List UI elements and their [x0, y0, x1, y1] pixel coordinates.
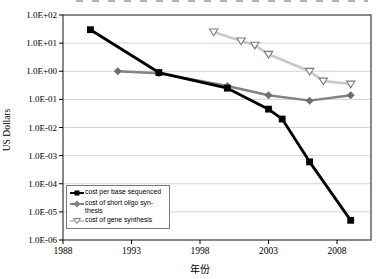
legend-entry-gene-synthesis: cost of gene synthesis — [70, 216, 167, 227]
svg-text:1988: 1988 — [54, 246, 73, 256]
y-axis-title: US Dollars — [2, 100, 14, 160]
svg-text:1.0E-01: 1.0E-01 — [28, 94, 57, 104]
legend-box: cost per base sequenced cost of short ol… — [66, 185, 170, 229]
open-triangle-marker-icon — [70, 216, 85, 227]
svg-text:1.0E-06: 1.0E-06 — [28, 235, 57, 245]
svg-text:1.0E-03: 1.0E-03 — [28, 151, 57, 161]
svg-text:1993: 1993 — [122, 246, 141, 256]
svg-text:1.0E+00: 1.0E+00 — [26, 66, 57, 76]
chart-figure: 1.0E+021.0E+011.0E+001.0E-011.0E-021.0E-… — [0, 0, 382, 279]
chart-plot-area: 1.0E+021.0E+011.0E+001.0E-011.0E-021.0E-… — [0, 0, 382, 279]
svg-text:2003: 2003 — [259, 246, 278, 256]
legend-label: cost of gene synthesis — [85, 216, 167, 224]
svg-text:1.0E-05: 1.0E-05 — [28, 207, 57, 217]
svg-text:2008: 2008 — [328, 246, 347, 256]
legend-entry-short-oligo: cost of short oligo syn-thesis — [70, 199, 167, 215]
x-axis-title: 年份 — [180, 261, 220, 276]
svg-text:1998: 1998 — [191, 246, 210, 256]
svg-text:1.0E-04: 1.0E-04 — [28, 179, 57, 189]
legend-entry-cost-per-base: cost per base sequenced — [70, 188, 167, 199]
filled-diamond-marker-icon — [70, 199, 85, 210]
filled-square-marker-icon — [70, 188, 85, 199]
legend-label: cost per base sequenced — [85, 188, 167, 196]
legend-label: cost of short oligo syn-thesis — [85, 199, 167, 215]
svg-text:1.0E-02: 1.0E-02 — [28, 123, 57, 133]
svg-text:1.0E+02: 1.0E+02 — [26, 10, 57, 20]
svg-text:1.0E+01: 1.0E+01 — [26, 38, 57, 48]
